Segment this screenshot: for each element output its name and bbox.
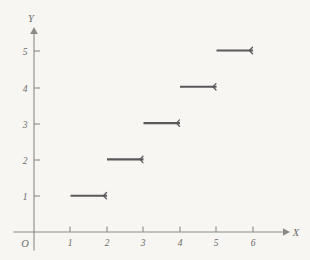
x-tick-label-6: 6 <box>251 238 256 248</box>
y-axis-arrow-icon <box>30 27 38 34</box>
y-tick-label-3: 3 <box>22 120 28 130</box>
x-axis-group <box>14 228 290 236</box>
x-tick-labels: 1 2 3 4 5 6 <box>68 238 256 248</box>
x-tick-label-1: 1 <box>68 238 73 248</box>
y-tick-labels: 1 2 3 4 5 <box>22 47 28 202</box>
figure-canvas: 1 2 3 4 5 6 1 2 3 4 5 Y X O <box>0 0 310 260</box>
y-tick-label-1: 1 <box>23 192 28 202</box>
x-tick-label-5: 5 <box>214 238 219 248</box>
y-tick-marks <box>34 51 40 196</box>
x-tick-label-2: 2 <box>105 238 110 248</box>
x-axis-arrow-icon <box>283 228 290 236</box>
x-tick-label-3: 3 <box>140 238 146 248</box>
y-tick-label-5: 5 <box>23 47 28 57</box>
step-function-plot: 1 2 3 4 5 6 1 2 3 4 5 Y X O <box>0 0 310 260</box>
y-axis-group <box>30 27 38 250</box>
origin-label: O <box>21 238 29 249</box>
x-axis-label: X <box>292 227 300 238</box>
y-tick-label-4: 4 <box>23 84 28 94</box>
y-axis-label: Y <box>28 13 35 24</box>
x-tick-marks <box>70 227 253 233</box>
x-tick-label-4: 4 <box>178 238 183 248</box>
y-tick-label-2: 2 <box>23 156 28 166</box>
step-segments-group <box>71 47 254 199</box>
